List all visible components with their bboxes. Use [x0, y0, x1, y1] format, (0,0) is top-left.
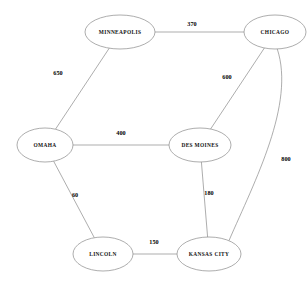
edge-weight-omaha-des_moines: 400: [116, 129, 125, 136]
node-label-lincoln: LINCOLN: [89, 251, 117, 257]
graph-canvas: MINNEAPOLISCHICAGOOMAHADES MOINESLINCOLN…: [0, 0, 308, 286]
edge-minneapolis-omaha: [55, 48, 109, 129]
node-label-omaha: OMAHA: [33, 142, 56, 148]
edge-weight-des_moines-kansas_city: 180: [204, 189, 213, 196]
edge-chicago-des_moines: [211, 48, 265, 129]
node-label-kansas_city: KANSAS CITY: [189, 251, 230, 257]
node-label-minneapolis: MINNEAPOLIS: [99, 29, 142, 35]
node-omaha[interactable]: OMAHA: [17, 128, 73, 162]
edge-chicago-kansas_city: [229, 49, 282, 241]
edge-weight-omaha-lincoln: 60: [72, 191, 78, 198]
edge-weight-chicago-des_moines: 600: [222, 73, 231, 80]
edges-layer: [54, 32, 282, 254]
edge-weight-lincoln-kansas_city: 150: [149, 238, 158, 245]
edge-omaha-lincoln: [54, 161, 95, 238]
nodes-layer: MINNEAPOLISCHICAGOOMAHADES MOINESLINCOLN…: [17, 15, 306, 271]
node-chicago[interactable]: CHICAGO: [244, 15, 306, 49]
network-diagram: MINNEAPOLISCHICAGOOMAHADES MOINESLINCOLN…: [0, 0, 308, 286]
edge-des_moines-kansas_city: [201, 162, 207, 237]
node-kansas_city[interactable]: KANSAS CITY: [177, 237, 241, 271]
node-lincoln[interactable]: LINCOLN: [73, 237, 133, 271]
node-label-des_moines: DES MOINES: [181, 142, 218, 148]
edge-labels-layer: 37065060080040060180150: [53, 20, 290, 245]
node-des_moines[interactable]: DES MOINES: [169, 128, 231, 162]
edge-weight-chicago-kansas_city: 800: [281, 155, 290, 162]
node-label-chicago: CHICAGO: [261, 29, 290, 35]
edge-weight-minneapolis-chicago: 370: [187, 20, 196, 27]
node-minneapolis[interactable]: MINNEAPOLIS: [85, 15, 155, 49]
edge-weight-minneapolis-omaha: 650: [53, 69, 62, 76]
